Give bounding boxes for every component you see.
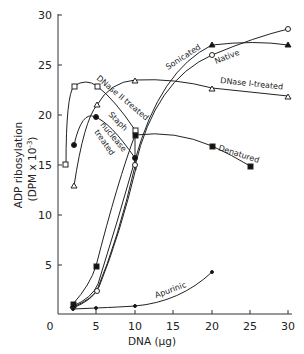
marker-open-square [63, 162, 68, 167]
label-native: Native [213, 48, 240, 66]
x-tick-25: 25 [243, 320, 257, 333]
y-tick-15: 15 [38, 159, 52, 172]
marker-filled-circle [72, 143, 77, 148]
chart-svg: 30 25 20 15 10 5 0 5 10 15 20 25 30 DNA … [0, 0, 304, 354]
curve-native [73, 29, 288, 308]
marker-filled-square [133, 133, 138, 138]
marker-open-triangle [94, 102, 100, 107]
chart: 30 25 20 15 10 5 0 5 10 15 20 25 30 DNA … [0, 0, 304, 354]
y-axis-title-line2: (DPM x 10-3) [26, 137, 38, 202]
x-axis-title: DNA (μg) [128, 335, 176, 347]
marker-small-dot [211, 271, 214, 274]
marker-filled-square [94, 264, 99, 269]
marker-filled-circle [94, 115, 99, 120]
y-tick-25: 25 [38, 59, 52, 72]
marker-small-dot [134, 305, 137, 308]
label-dnase1: DNase I-treated [220, 76, 284, 92]
x-tick-5: 5 [93, 320, 100, 333]
markers [63, 27, 291, 311]
y-tick-10: 10 [38, 209, 52, 222]
marker-filled-square [210, 144, 215, 149]
y-axis-title: ADP ribosylation (DPM x 10-3) [12, 122, 38, 208]
x-tick-labels: 0 5 10 15 20 25 30 [47, 320, 296, 333]
y-tick-20: 20 [38, 109, 52, 122]
marker-open-circle [286, 27, 291, 32]
marker-open-triangle [71, 183, 77, 188]
curve-labels: Sonicated Native DNase I-treated DNase I… [92, 43, 283, 300]
marker-open-circle [95, 289, 100, 294]
marker-open-square [95, 84, 100, 89]
label-apurinic: Apurinic [154, 280, 188, 300]
marker-filled-circle [133, 156, 138, 161]
x-tick-0: 0 [47, 320, 54, 333]
label-sonicated: Sonicated [164, 43, 202, 72]
x-tick-10: 10 [128, 320, 142, 333]
y-tick-labels: 30 25 20 15 10 5 [38, 9, 52, 272]
x-tick-30: 30 [281, 320, 295, 333]
marker-open-triangle [285, 94, 291, 99]
marker-small-dot [95, 307, 98, 310]
x-tick-15: 15 [166, 320, 180, 333]
label-denatured: Denatured [217, 143, 260, 165]
y-axis-title-line1: ADP ribosylation [12, 122, 24, 208]
y-tick-5: 5 [45, 259, 52, 272]
label-dnase2: DNase II treated [95, 74, 151, 123]
marker-filled-square [248, 164, 253, 169]
marker-open-square [72, 84, 77, 89]
marker-open-circle [133, 163, 138, 168]
marker-small-dot [72, 308, 75, 311]
x-tick-20: 20 [205, 320, 219, 333]
marker-open-square [133, 128, 138, 133]
y-tick-30: 30 [38, 9, 52, 22]
